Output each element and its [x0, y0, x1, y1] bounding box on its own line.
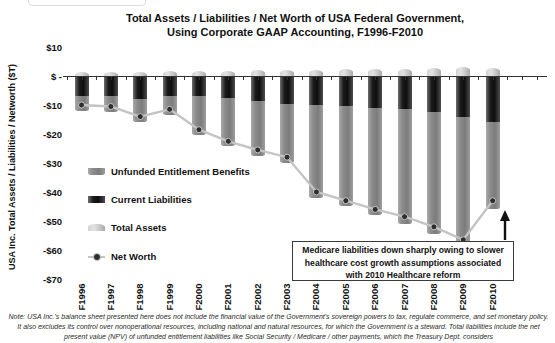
- bar-current-liabilities-F2003: [280, 76, 294, 104]
- x-tick-label-F2007: F2007: [399, 280, 411, 314]
- x-tick-label-F2006: F2006: [369, 280, 381, 314]
- x-tick-label-F2005: F2005: [340, 280, 352, 314]
- legend-item-unfunded: Unfunded Entitlement Benefits: [88, 163, 250, 179]
- chart-canvas: Total Assets / Liabilities / Net Worth o…: [0, 0, 555, 343]
- x-axis-tick: [316, 77, 317, 80]
- x-axis-tick: [272, 77, 273, 80]
- x-axis-tick: [419, 77, 420, 80]
- x-axis-tick: [214, 77, 215, 80]
- bar-unfunded-entitlements-F1997: [104, 96, 118, 112]
- x-axis-tick: [449, 77, 450, 80]
- bar-unfunded-entitlements-F2003: [280, 104, 294, 163]
- bar-unfunded-entitlements-F2010: [486, 122, 500, 209]
- x-axis-tick: [126, 77, 127, 80]
- x-axis-tick: [493, 77, 494, 80]
- x-axis-tick: [111, 77, 112, 80]
- y-tick-label: -$50: [18, 216, 62, 227]
- x-tick-label-F2002: F2002: [252, 280, 264, 314]
- x-axis-tick: [140, 77, 141, 80]
- legend-label: Unfunded Entitlement Benefits: [111, 166, 250, 177]
- x-tick-label-F1996: F1996: [76, 280, 88, 314]
- x-axis-tick: [155, 77, 156, 80]
- x-tick-label-F1999: F1999: [164, 280, 176, 314]
- bar-current-liabilities-F2010: [486, 76, 500, 122]
- bar-total-assets-F2006: [368, 69, 382, 76]
- y-tick-label: -$10: [18, 100, 62, 111]
- bar-total-assets-F2007: [398, 69, 412, 76]
- bar-unfunded-entitlements-F2004: [309, 105, 323, 198]
- bar-current-liabilities-F2006: [368, 76, 382, 108]
- x-axis-tick: [199, 77, 200, 80]
- current-swatch-icon: [88, 196, 105, 203]
- chart-title-line2: Using Corporate GAAP Accounting, F1996-F…: [45, 25, 545, 39]
- x-axis-tick: [405, 77, 406, 80]
- assets-swatch-icon: [88, 224, 105, 231]
- x-tick-label-F2003: F2003: [281, 280, 293, 314]
- x-axis-tick: [522, 77, 523, 80]
- legend-label: Total Assets: [111, 222, 166, 233]
- legend-item-current: Current Liabilities: [88, 191, 192, 207]
- legend-item-assets: Total Assets: [88, 220, 166, 236]
- x-axis-tick: [228, 77, 229, 80]
- cropped-ui-fragment: [28, 0, 146, 6]
- bar-unfunded-entitlements-F2002: [251, 101, 265, 156]
- chart-title: Total Assets / Liabilities / Net Worth o…: [45, 11, 545, 39]
- x-axis-tick: [434, 77, 435, 80]
- x-axis-tick: [184, 77, 185, 80]
- x-axis-tick: [346, 77, 347, 80]
- y-tick-label: -$30: [18, 158, 62, 169]
- zero-axis-line: [63, 76, 547, 77]
- bar-unfunded-entitlements-F2009: [456, 117, 470, 249]
- x-axis-tick: [331, 77, 332, 80]
- x-axis-tick: [287, 77, 288, 80]
- bar-unfunded-entitlements-F1998: [133, 99, 147, 122]
- bar-current-liabilities-F2005: [339, 76, 353, 106]
- bar-unfunded-entitlements-F2001: [221, 98, 235, 146]
- bar-unfunded-entitlements-F1996: [75, 96, 89, 111]
- bar-unfunded-entitlements-F2000: [192, 96, 206, 135]
- x-axis-tick: [82, 77, 83, 80]
- y-tick-label: -$20: [18, 129, 62, 140]
- bar-total-assets-F2005: [339, 69, 353, 76]
- unfunded-swatch-icon: [88, 168, 105, 175]
- x-axis-tick: [258, 77, 259, 80]
- bar-unfunded-entitlements-F1999: [163, 96, 177, 115]
- x-tick-label-F2009: F2009: [457, 280, 469, 314]
- x-axis-tick: [375, 77, 376, 80]
- bar-total-assets-F2008: [427, 68, 441, 76]
- y-tick-label: -$70: [18, 274, 62, 285]
- bar-unfunded-entitlements-F2008: [427, 112, 441, 234]
- x-axis-tick: [170, 77, 171, 80]
- x-axis-tick: [67, 77, 68, 80]
- bar-current-liabilities-F2004: [309, 76, 323, 105]
- x-axis-tick: [478, 77, 479, 80]
- x-tick-label-F2004: F2004: [310, 280, 322, 314]
- bar-current-liabilities-F2009: [456, 76, 470, 117]
- x-axis-tick: [390, 77, 391, 80]
- x-axis-tick: [96, 77, 97, 80]
- y-tick-label: -$40: [18, 187, 62, 198]
- legend-label: Net Worth: [111, 251, 156, 262]
- x-axis-tick: [537, 77, 538, 80]
- x-axis-tick: [507, 77, 508, 80]
- x-axis-tick: [361, 77, 362, 80]
- bar-current-liabilities-F2007: [398, 76, 412, 109]
- legend-label: Current Liabilities: [111, 194, 192, 205]
- x-tick-label-F1997: F1997: [105, 280, 117, 314]
- x-tick-label-F2001: F2001: [222, 280, 234, 314]
- x-axis-tick: [463, 77, 464, 80]
- bar-current-liabilities-F2008: [427, 76, 441, 112]
- y-tick-label: $ -: [18, 71, 62, 82]
- footnote: Note: USA Inc.'s balance sheet presented…: [8, 312, 549, 341]
- net-worth-legend-marker-icon: [88, 253, 105, 260]
- x-axis-tick: [243, 77, 244, 80]
- legend-item-line: Net Worth: [88, 248, 156, 264]
- y-tick-label: -$60: [18, 245, 62, 256]
- bar-total-assets-F2010: [486, 68, 500, 76]
- x-tick-label-F2000: F2000: [193, 280, 205, 314]
- y-tick-label: $10: [18, 42, 62, 53]
- chart-title-line1: Total Assets / Liabilities / Net Worth o…: [45, 11, 545, 25]
- bar-unfunded-entitlements-F2005: [339, 106, 353, 206]
- bar-unfunded-entitlements-F2007: [398, 109, 412, 224]
- bar-total-assets-F2009: [456, 67, 470, 76]
